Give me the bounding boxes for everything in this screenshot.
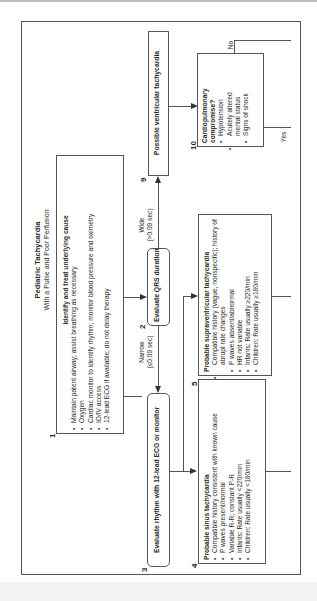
box-10-content: Cardiopulmonary compromise? Hypotension …	[201, 57, 250, 143]
box-1-item: Maintain patent airway; assist breathing…	[70, 160, 78, 430]
box-10-item: Hypotension	[217, 57, 225, 143]
label-narrow-text: Narrow	[138, 332, 146, 372]
arrow-into-4	[190, 468, 197, 474]
arrow-into-3	[155, 386, 161, 393]
label-yes: Yes	[280, 130, 288, 144]
box-5-item: Infants: Rate usually ≥220/min	[244, 216, 252, 372]
box-4-list: Compatible history consistent with known…	[211, 382, 252, 560]
arrow-into-5	[191, 293, 198, 299]
connector-5-out	[272, 296, 291, 297]
connector-3-out	[170, 471, 190, 472]
box-5-heading: Probable supraventricular tachycardia	[203, 216, 211, 372]
chart-title: Pediatric Tachycardia With a Pulse and P…	[33, 200, 51, 320]
title-sub: With a Pulse and Poor Perfusion	[42, 200, 51, 320]
page-top-edge	[0, 0, 317, 2]
box-9-text: Possible ventricular tachycardia	[153, 34, 160, 172]
box-4-item: Variable R-R; constant P-R	[228, 382, 236, 560]
box-5-item: HR not variable	[236, 216, 244, 372]
box-3-text: Evaluate rhythm with 12-lead ECG or moni…	[153, 397, 160, 563]
label-no: No	[227, 38, 235, 52]
box-2-text: Evaluate QRS duration	[153, 252, 160, 322]
step-number-4: 4	[190, 564, 199, 568]
box-1-item: Cardiac monitor to identify rhythm; moni…	[87, 160, 95, 430]
box-1-heading: Identify and treat underlying cause	[62, 160, 70, 380]
box-1-item: Oxygen	[78, 160, 86, 430]
box-5-item: Compatible history (vague, nonspecific);…	[211, 216, 227, 372]
step-number-3: 3	[140, 568, 149, 572]
step-number-9: 9	[139, 178, 148, 182]
connector-10-no-horizontal	[234, 40, 291, 41]
box-4-item: Compatible history consistent with known…	[211, 382, 219, 560]
step-number-2: 2	[138, 325, 147, 329]
box-4-heading: Probable sinus tachycardia	[203, 382, 211, 560]
box-10-item: Acutely altered mental status	[226, 74, 242, 143]
arrow-into-2	[140, 294, 147, 300]
box-10-list: Hypotension Acutely altered mental statu…	[217, 57, 250, 143]
box-5-item: P waves absent/abnormal	[228, 216, 236, 372]
title-main: Pediatric Tachycardia	[33, 200, 42, 320]
box-4-item: Infants: Rate usually <220/min	[236, 382, 244, 560]
connector-2-to-9	[158, 182, 159, 248]
box-5-list: Compatible history (vague, nonspecific);…	[211, 216, 260, 372]
box-4-item: P waves present/normal	[219, 382, 227, 560]
box-5-item: Children: Rate usually ≥180/min	[252, 216, 260, 372]
box-1-list: Maintain patent airway; assist breathing…	[70, 160, 111, 430]
box-4-item: Children: Rate usually <180/min	[244, 382, 252, 560]
connector-1-to-3	[124, 396, 142, 397]
box-4-content: Probable sinus tachycardia Compatible hi…	[203, 382, 252, 560]
label-wide: Wide (>0.09 sec)	[138, 205, 154, 245]
step-number-5: 5	[190, 382, 199, 386]
label-wide-sub: (>0.09 sec)	[146, 205, 154, 245]
label-wide-text: Wide	[138, 205, 146, 245]
page-bottom-edge	[0, 582, 317, 601]
box-1-item: IO/IV access	[95, 160, 103, 430]
box-5-content: Probable supraventricular tachycardia Co…	[203, 216, 260, 372]
box-1-content: Identify and treat underlying cause Main…	[62, 160, 111, 430]
connector-3-to-5-vertical	[183, 296, 184, 471]
connector-3-to-5-horizontal	[183, 296, 191, 297]
connector-10-yes	[264, 127, 291, 128]
connector-2-to-3	[158, 326, 159, 388]
connector-9-to-10	[169, 106, 192, 107]
box-1-item: 12-lead ECG if available; do not delay t…	[103, 160, 111, 430]
box-10-heading: Cardiopulmonary compromise?	[201, 57, 217, 143]
connector-4-out	[266, 471, 291, 472]
label-narrow-sub: (≤0.09 sec)	[146, 332, 154, 372]
step-number-1: 1	[48, 434, 57, 438]
box-10-item: Signs of shock	[242, 57, 250, 143]
arrow-into-9	[155, 176, 161, 183]
label-narrow: Narrow (≤0.09 sec)	[138, 332, 154, 372]
